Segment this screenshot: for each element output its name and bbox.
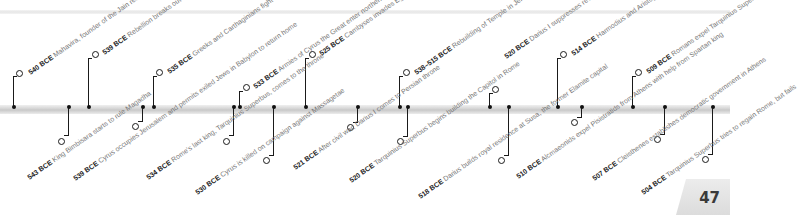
- event-text: Darius builds royal residence at Susa, t…: [442, 63, 609, 183]
- event-year: 518 BCE: [417, 178, 444, 200]
- event-text: Tarquinius Superbus tries to regain Rome…: [665, 83, 797, 179]
- event-year: 539 BCE: [101, 34, 128, 56]
- event-year: 520 BCE: [348, 162, 375, 184]
- event-year: 534 BCE: [145, 159, 172, 181]
- event-text: Rebuilding of Temple in Jerusalem (burnt…: [451, 0, 625, 49]
- event-year: 530 BCE: [194, 174, 221, 196]
- event-year: 504 BCE: [640, 174, 667, 196]
- event-year: 539 BCE: [72, 160, 99, 182]
- page-number: 47: [699, 189, 720, 207]
- event-year: 520 BCE: [503, 38, 530, 60]
- event-text: Cyrus is killed on campaign against Mass…: [219, 87, 346, 179]
- event-text: Cambyses invades Egypt, defeats Egyptian…: [343, 0, 703, 39]
- event-year: 510 BCE: [515, 158, 542, 180]
- event-year: 535 BCE: [166, 53, 193, 75]
- event-year: 521 BCE: [292, 149, 319, 171]
- event-year: 507 BCE: [591, 160, 618, 182]
- event-text: Romans expel Tarquinius Superbus and set…: [670, 0, 801, 57]
- event-year: 514 BCE: [570, 35, 597, 57]
- event-year: 540 BCE: [27, 54, 54, 76]
- event-year: 543 BCE: [26, 159, 53, 181]
